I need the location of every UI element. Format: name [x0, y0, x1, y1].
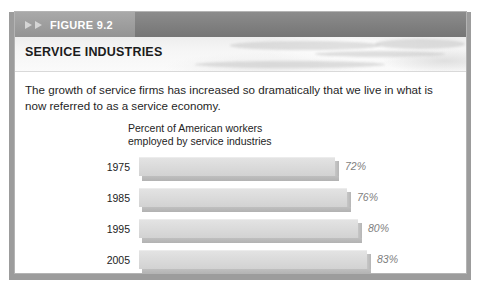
- bar-track: [139, 250, 367, 269]
- bar-track: [139, 219, 358, 238]
- figure-number-label: FIGURE 9.2: [50, 19, 113, 31]
- cloud-wisp-icon: [195, 61, 385, 68]
- chart-caption: Percent of American workers employed by …: [128, 122, 272, 147]
- cloud-wisp-icon: [375, 39, 465, 49]
- table-row: 2005 83%: [15, 248, 466, 274]
- bar-value-label: 72%: [345, 160, 366, 172]
- bar-category-label: 1985: [70, 192, 130, 204]
- bar-value-label: 76%: [357, 191, 378, 203]
- figure-header-band: FIGURE 9.2: [15, 12, 466, 37]
- bar-value-label: 83%: [377, 253, 398, 265]
- figure-title-band: SERVICE INDUSTRIES: [15, 37, 466, 72]
- figure-body-text: The growth of service firms has increase…: [25, 82, 445, 114]
- table-row: 1975 72%: [15, 155, 466, 186]
- bar-track: [139, 157, 335, 176]
- chevron-right-icon-2: [35, 21, 42, 29]
- figure-card: FIGURE 9.2 SERVICE INDUSTRIES The growth…: [14, 11, 467, 274]
- bar-fill: [139, 219, 358, 238]
- bar-track: [139, 188, 347, 207]
- bar-category-label: 1975: [70, 161, 130, 173]
- table-row: 1985 76%: [15, 186, 466, 217]
- figure-header-band-fill: [135, 12, 466, 37]
- figure-container: FIGURE 9.2 SERVICE INDUSTRIES The growth…: [0, 0, 480, 289]
- bar-value-label: 80%: [368, 222, 389, 234]
- figure-badge: FIGURE 9.2: [15, 12, 135, 37]
- figure-title: SERVICE INDUSTRIES: [25, 45, 162, 59]
- bar-list: 1975 72% 1985 76% 1995: [15, 155, 466, 274]
- bar-fill: [139, 250, 367, 269]
- bar-category-label: 2005: [70, 254, 130, 266]
- table-row: 1995 80%: [15, 217, 466, 248]
- chevron-right-icon: [25, 21, 32, 29]
- cloud-wisp-icon: [230, 41, 380, 50]
- bar-category-label: 1995: [70, 223, 130, 235]
- bar-fill: [139, 188, 347, 207]
- bar-fill: [139, 157, 335, 176]
- cloud-wisp-icon: [315, 51, 445, 57]
